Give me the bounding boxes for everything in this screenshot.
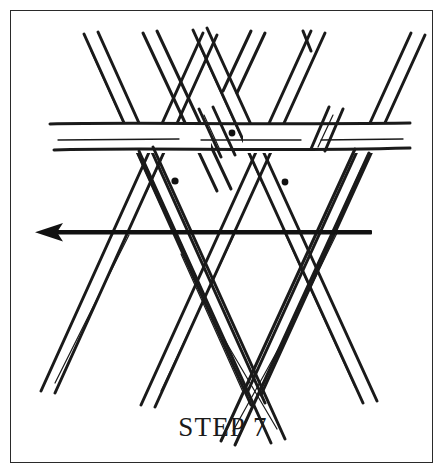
weaving-diagram (11, 11, 432, 462)
strip-down-left-4 (223, 31, 265, 93)
front-strip-dl-right (221, 149, 355, 441)
direction-arrow (35, 223, 372, 242)
illustration-page: STEP 7 (0, 0, 446, 476)
arrow-shaft (57, 230, 372, 235)
weave-point-right (282, 179, 289, 186)
weave-point-left (171, 177, 178, 184)
step-caption: STEP 7 (0, 414, 446, 441)
strip-down-left-1 (41, 33, 217, 393)
horizontal-strip-top-edge (50, 123, 410, 124)
strip-down-right-2 (193, 28, 377, 403)
strip-group-down-right (84, 28, 377, 405)
weave-point-top (229, 130, 236, 137)
